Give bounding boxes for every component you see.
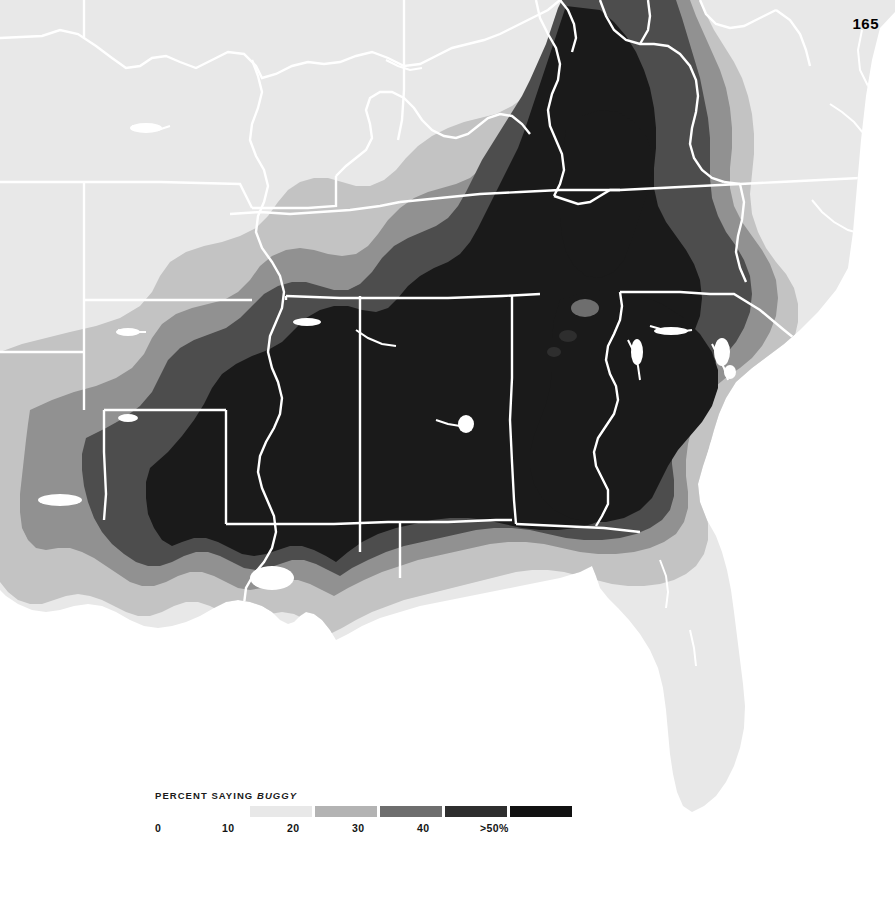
page-number: 165 [852, 16, 879, 31]
map-legend: PERCENT SAYING BUGGY 0 10 20 30 40 >50% [155, 790, 575, 846]
page-canvas: 165 PERCENT SAYING BUGGY 0 10 20 30 40 >… [0, 0, 895, 905]
legend-title: PERCENT SAYING BUGGY [155, 790, 297, 801]
legend-tick-over-50: >50% [480, 823, 509, 834]
legend-swatch-strip [250, 806, 572, 817]
legend-tick-30: 30 [352, 823, 364, 834]
legend-title-keyword: BUGGY [257, 790, 297, 801]
legend-swatch-over-50 [510, 806, 572, 817]
legend-tick-40: 40 [417, 823, 429, 834]
legend-swatch-30-40 [445, 806, 507, 817]
legend-tick-labels: 0 10 20 30 40 >50% [155, 823, 575, 841]
legend-swatch-10-20 [315, 806, 377, 817]
dialect-choropleth-map [0, 0, 895, 905]
legend-swatch-0-10 [250, 806, 312, 817]
legend-swatch-20-30 [380, 806, 442, 817]
legend-tick-10: 10 [222, 823, 234, 834]
legend-tick-0: 0 [155, 823, 161, 834]
legend-title-prefix: PERCENT SAYING [155, 790, 257, 801]
map-svg [0, 0, 895, 905]
legend-tick-20: 20 [287, 823, 299, 834]
